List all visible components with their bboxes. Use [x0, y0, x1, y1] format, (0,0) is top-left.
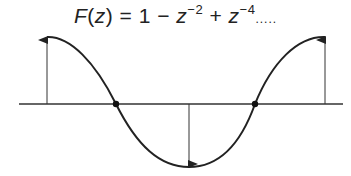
response-curve	[47, 37, 325, 167]
zero-crossing-dot-right	[252, 101, 258, 107]
zero-crossing-dot-left	[113, 101, 119, 107]
response-diagram	[0, 0, 351, 176]
